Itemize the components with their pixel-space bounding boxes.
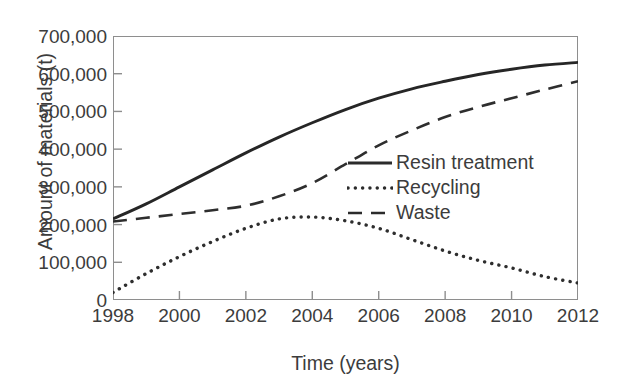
legend-line-sample (347, 206, 393, 220)
legend-line-sample (347, 181, 393, 195)
x-tick-label: 1998 (92, 306, 134, 325)
x-axis-title: Time (years) (113, 352, 578, 375)
y-tick-label: 300,000 (38, 177, 107, 196)
legend-label: Recycling (396, 178, 481, 198)
x-tick-label: 2010 (490, 306, 532, 325)
y-tick-label: 500,000 (38, 102, 107, 121)
x-tick-label: 2000 (158, 306, 200, 325)
chart-legend: Resin treatmentRecyclingWaste (347, 150, 557, 225)
legend-item: Waste (347, 200, 557, 225)
chart-figure: Amount of materials (t) 0100,000200,0003… (0, 0, 618, 389)
x-tick-label: 2002 (225, 306, 267, 325)
x-tick-label: 2006 (358, 306, 400, 325)
legend-label: Resin treatment (396, 153, 534, 173)
series-line (113, 217, 578, 293)
legend-label: Waste (396, 203, 451, 223)
y-tick-label: 100,000 (38, 253, 107, 272)
x-tick-label: 2008 (424, 306, 466, 325)
x-tick-label: 2004 (291, 306, 333, 325)
y-tick-label: 600,000 (38, 64, 107, 83)
y-tick-label: 700,000 (38, 27, 107, 46)
y-tick-label: 400,000 (38, 140, 107, 159)
legend-item: Resin treatment (347, 150, 557, 175)
x-tick-label: 2012 (557, 306, 599, 325)
legend-item: Recycling (347, 175, 557, 200)
legend-line-sample (347, 156, 393, 170)
y-tick-label: 200,000 (38, 215, 107, 234)
y-axis-tick-labels: 0100,000200,000300,000400,000500,000600,… (0, 0, 107, 389)
